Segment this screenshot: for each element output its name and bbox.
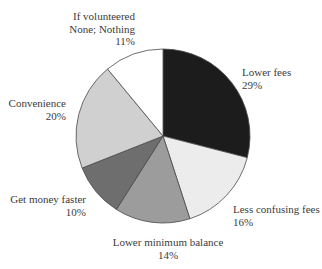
pie-slices [76,49,250,223]
label-none-line2: None; Nothing [69,23,135,36]
label-none-nothing: If volunteered None; Nothing 11% [69,10,135,48]
label-lower-min-pct: 14% [98,249,238,262]
label-faster-pct: 10% [10,206,86,219]
label-faster-text: Get money faster [10,193,86,206]
label-less-confusing-text: Less confusing fees [233,203,320,216]
label-lower-fees-text: Lower fees [242,66,291,79]
label-convenience-text: Convenience [9,97,66,110]
label-lower-fees: Lower fees 29% [242,66,291,91]
label-lower-fees-pct: 29% [242,79,291,92]
label-convenience-pct: 20% [9,110,66,123]
label-less-confusing-pct: 16% [233,216,320,229]
label-none-pct: 11% [69,35,135,48]
label-less-confusing-fees: Less confusing fees 16% [233,203,320,228]
label-lower-minimum-balance: Lower minimum balance 14% [98,236,238,261]
label-convenience: Convenience 20% [9,97,66,122]
label-get-money-faster: Get money faster 10% [10,193,86,218]
label-lower-min-text: Lower minimum balance [98,236,238,249]
pie-chart [0,0,322,269]
label-none-line1: If volunteered [69,10,135,23]
